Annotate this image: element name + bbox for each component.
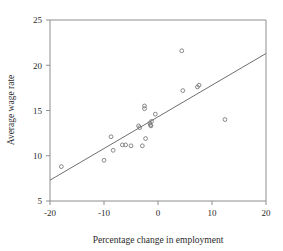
plot-frame: [50, 20, 266, 201]
data-point: [144, 137, 148, 141]
regression-line: [50, 53, 266, 180]
x-tick-label: 10: [208, 208, 218, 218]
frame-top-right-border: [50, 20, 266, 201]
y-axis-label: Average wage rate: [6, 75, 16, 146]
x-axis-label: Percentage change in employment: [93, 235, 224, 245]
data-point: [143, 107, 147, 111]
y-tick-label: 20: [33, 61, 43, 71]
y-tick-label: 15: [33, 106, 43, 116]
data-point: [109, 135, 113, 139]
data-point: [111, 148, 115, 152]
y-tick-label: 5: [38, 196, 43, 206]
data-point: [59, 165, 63, 169]
data-point: [180, 49, 184, 53]
x-axis-ticks: -20-1001020: [44, 201, 271, 218]
data-point: [181, 89, 185, 93]
x-tick-label: 20: [262, 208, 272, 218]
x-tick-label: 0: [156, 208, 161, 218]
y-axis-ticks: 510152025: [33, 15, 50, 206]
x-tick-label: -20: [44, 208, 56, 218]
data-point: [102, 158, 106, 162]
data-point: [223, 118, 227, 122]
data-point: [153, 112, 157, 116]
scatter-plot-figure: 510152025 -20-1001020 Percentage change …: [0, 0, 283, 251]
data-point: [129, 144, 133, 148]
y-tick-label: 10: [33, 151, 43, 161]
plot-canvas: 510152025 -20-1001020 Percentage change …: [0, 0, 283, 251]
x-tick-label: -10: [98, 208, 110, 218]
data-points: [59, 49, 226, 169]
data-point: [140, 144, 144, 148]
y-tick-label: 25: [33, 15, 43, 25]
